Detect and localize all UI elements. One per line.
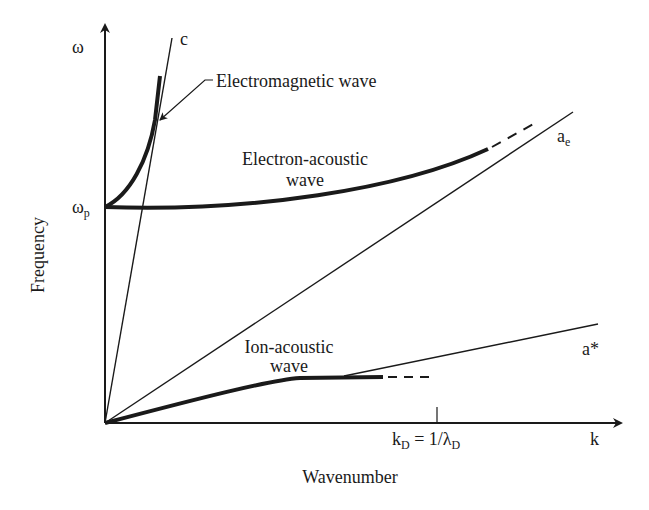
omega-p-main: ω [72,197,84,217]
x-axis-label: Wavenumber [280,468,420,486]
ae-sub: e [565,135,570,149]
electron-acoustic-label-line1: Electron-acoustic [222,150,388,168]
em-wave-label: Electromagnetic wave [216,72,376,90]
omega-p-label: ωp [72,198,90,219]
y-axis-label: Frequency [29,205,47,305]
light-line-label: c [180,30,188,48]
kd-sub: D [401,438,410,452]
omega-p-sub: p [84,206,90,220]
y-axis-symbol: ω [72,38,84,56]
electron-acoustic-dashed-extension [492,122,537,147]
astar-label: a* [582,340,599,358]
electron-acoustic-label-line2: wave [222,171,388,189]
kd-main: k [392,429,401,449]
ae-main: a [557,126,565,146]
ion-acoustic-wave-curve [105,377,383,423]
kd-eq: = 1/λ [410,429,452,449]
ion-sound-line-astar [344,324,598,376]
lambda-d-sub: D [452,438,461,452]
em-leader-arrow [160,80,213,120]
ion-acoustic-label-line2: wave [236,357,342,375]
ae-label: ae [557,127,570,148]
x-axis-symbol: k [590,430,599,448]
electron-acoustic-label: Electron-acoustic wave [222,150,388,189]
light-line-c [105,38,172,423]
ion-acoustic-label-line1: Ion-acoustic [236,338,342,356]
ion-acoustic-label: Ion-acoustic wave [236,338,342,375]
electromagnetic-wave-curve [105,76,160,207]
kd-label: kD = 1/λD [392,430,460,451]
